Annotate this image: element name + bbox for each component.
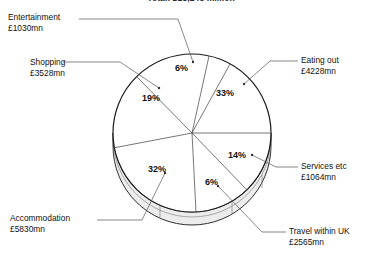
callout-entertainment-amount: £1030mn: [8, 23, 60, 34]
callout-entertainment-label: Entertainment: [8, 12, 60, 22]
callout-services-etc: Services etc £1064mn: [301, 161, 347, 182]
callout-eating-out-amount: £4228mn: [301, 66, 339, 77]
callout-eating-out: Eating out £4228mn: [301, 55, 339, 76]
slice-percent-accommodation: 32%: [148, 164, 166, 174]
callout-shopping-label: Shopping: [30, 57, 65, 67]
callout-travel-within-uk-amount: £2565mn: [289, 237, 350, 248]
pie-slices: [113, 54, 271, 212]
callout-shopping: Shopping £3528mn: [30, 57, 65, 78]
callout-travel-within-uk: Travel within UK £2565mn: [289, 226, 350, 247]
callout-travel-within-uk-label: Travel within UK: [289, 226, 350, 236]
callout-eating-out-label: Eating out: [301, 55, 339, 65]
callout-accommodation: Accommodation £5830mn: [10, 213, 70, 234]
callout-accommodation-amount: £5830mn: [10, 224, 70, 235]
slice-percent-entertainment: 6%: [175, 63, 188, 73]
slice-percent-eating-out: 33%: [216, 88, 234, 98]
callout-accommodation-label: Accommodation: [10, 213, 70, 223]
callout-services-etc-amount: £1064mn: [301, 172, 347, 183]
slice-percent-travel-within-uk: 6%: [205, 177, 218, 187]
pie-chart-figure: Total: £18,245 million: [0, 0, 382, 261]
callout-services-etc-label: Services etc: [301, 161, 347, 171]
slice-percent-services-etc: 14%: [228, 150, 246, 160]
leader-eatingout: [244, 61, 298, 84]
slice-percent-shopping: 19%: [142, 93, 160, 103]
callout-shopping-amount: £3528mn: [30, 68, 65, 79]
callout-entertainment: Entertainment £1030mn: [8, 12, 60, 33]
